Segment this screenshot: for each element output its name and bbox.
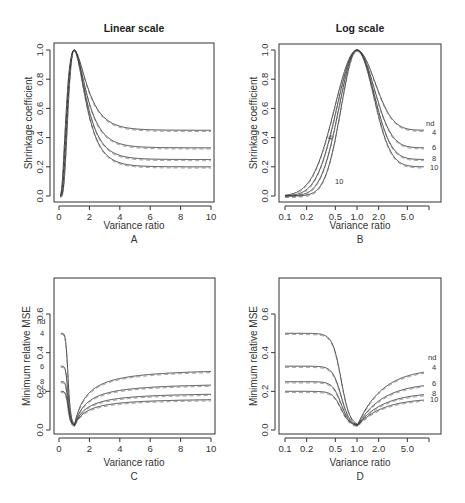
series-line [285, 50, 424, 195]
series-line-dashed [285, 367, 424, 426]
x-axis: 0246810 [56, 438, 216, 454]
series-line-dashed [285, 51, 424, 197]
y-axis: 0.00.20.40.60.81.0 [34, 43, 50, 202]
panel-b: 0.00.20.40.60.81.0 0.10.20.51.02.05.0 nd… [248, 43, 441, 245]
inline-label-10: 10 [335, 177, 343, 186]
x-axis-label: Variance ratio [330, 220, 391, 231]
y-tick-label: 0.0 [259, 423, 270, 436]
y-tick-label: 0.2 [259, 385, 270, 398]
x-tick-label: 6 [148, 443, 153, 454]
x-tick-label: 0.2 [300, 211, 313, 222]
series-line [285, 391, 424, 425]
x-tick-label: 8 [178, 443, 183, 454]
series-line-dashed [285, 335, 424, 426]
y-axis: 0.00.20.40.6 [259, 307, 275, 436]
label-10: 10 [430, 395, 438, 404]
x-tick-label: 4 [117, 443, 122, 454]
figure: Linear scale Log scale 0.00.20.40.60.81.… [0, 0, 465, 503]
y-axis-label: Minimum relative MSE [21, 306, 32, 406]
y-axis: 0.00.20.40.6 [34, 307, 50, 436]
x-tick-label: 2.0 [372, 443, 385, 454]
panel-d: 0.00.20.40.6 0.10.20.51.02.05.0 nd 4 6 8… [248, 278, 441, 482]
curves [61, 333, 211, 426]
x-tick-label: 0.1 [278, 211, 291, 222]
y-tick-label: 0.8 [259, 73, 270, 86]
y-tick-label: 1.0 [259, 43, 270, 56]
y-tick-label: 0.0 [34, 423, 45, 436]
label-4: 4 [432, 128, 436, 137]
series-line [285, 50, 424, 196]
label-6: 6 [40, 362, 44, 371]
label-6: 6 [432, 379, 436, 388]
label-4: 4 [40, 329, 44, 338]
x-tick-label: 10 [206, 443, 217, 454]
y-tick-label: 0.8 [34, 73, 45, 86]
x-tick-label: 8 [178, 211, 183, 222]
y-tick-label: 0.4 [259, 346, 270, 359]
x-tick-label: 10 [206, 211, 217, 222]
x-tick-label: 0 [56, 443, 61, 454]
y-axis-label: Minimum relative MSE [248, 306, 259, 406]
x-axis-label: Variance ratio [104, 457, 165, 468]
x-tick-label: 5.0 [401, 443, 414, 454]
y-tick-label: 0.0 [34, 189, 45, 202]
x-axis-label: Variance ratio [330, 457, 391, 468]
series-line-dashed [285, 51, 424, 196]
series-line-dashed [61, 51, 212, 196]
x-axis-label: Variance ratio [104, 220, 165, 231]
label-nd: nd [426, 119, 434, 128]
x-tick-label: 1.0 [350, 443, 363, 454]
series-line [61, 366, 211, 425]
curves [285, 333, 424, 426]
label-4: 4 [432, 363, 436, 372]
panel-letter: A [131, 234, 138, 245]
label-6: 6 [432, 143, 436, 152]
series-line [285, 366, 424, 425]
panel-letter: C [130, 471, 137, 482]
y-tick-label: 0.4 [34, 346, 45, 359]
y-axis-label: Shrinkage coefficient [248, 76, 259, 169]
label-nd: nd [37, 317, 45, 326]
title-linear-scale: Linear scale [104, 22, 165, 34]
y-tick-label: 0.2 [259, 160, 270, 173]
plot-frame [54, 43, 214, 202]
curves [61, 50, 212, 197]
x-tick-label: 2 [87, 211, 92, 222]
y-tick-label: 0.6 [34, 102, 45, 115]
label-8: 8 [432, 154, 436, 163]
y-tick-label: 0.4 [259, 131, 270, 144]
x-tick-label: 0.1 [278, 443, 291, 454]
y-tick-label: 0.2 [34, 160, 45, 173]
y-tick-label: 0.6 [259, 102, 270, 115]
panel-letter: D [356, 471, 363, 482]
label-nd: nd [428, 353, 436, 362]
y-tick-label: 1.0 [34, 43, 45, 56]
x-tick-label: 2 [87, 443, 92, 454]
series-line-dashed [285, 51, 424, 197]
curves [285, 50, 424, 197]
plot-frame [279, 44, 441, 202]
y-tick-label: 0.6 [259, 307, 270, 320]
panel-c: 0.00.20.40.6 0246810 nd 4 6 8 10 Varianc… [21, 278, 216, 482]
x-tick-label: 0 [56, 211, 61, 222]
y-tick-label: 0.0 [259, 189, 270, 202]
series-line [285, 50, 424, 196]
series-line [285, 50, 424, 196]
plot-frame [279, 278, 441, 434]
x-axis: 0.10.20.51.02.05.0 [278, 438, 429, 454]
label-8: 8 [40, 377, 44, 386]
series-line-dashed [285, 51, 424, 197]
label-10: 10 [38, 387, 46, 396]
panel-letter: B [357, 234, 364, 245]
panel-a: 0.00.20.40.60.81.0 0246810 Variance rati… [23, 43, 216, 245]
title-log-scale: Log scale [336, 22, 385, 34]
inline-label-4: 4 [328, 133, 332, 142]
x-tick-label: 0.5 [329, 443, 342, 454]
series-line [61, 50, 212, 195]
y-axis-label: Shrinkage coefficient [23, 76, 34, 169]
x-tick-label: 5.0 [401, 211, 414, 222]
y-axis: 0.00.20.40.60.81.0 [259, 43, 275, 202]
x-tick-label: 0.2 [300, 443, 313, 454]
y-tick-label: 0.4 [34, 131, 45, 144]
label-10: 10 [430, 163, 438, 172]
